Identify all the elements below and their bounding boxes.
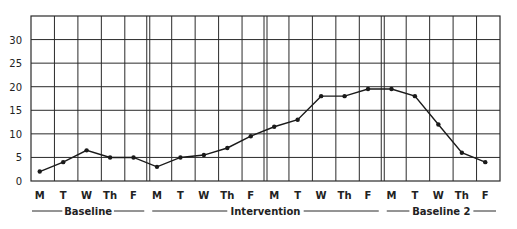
x-day-label: Th bbox=[338, 190, 352, 201]
data-point bbox=[272, 125, 276, 129]
x-day-label: W bbox=[433, 190, 444, 201]
data-point bbox=[202, 153, 206, 157]
x-day-label: F bbox=[247, 190, 254, 201]
x-day-label: T bbox=[177, 190, 184, 201]
x-day-label: W bbox=[81, 190, 92, 201]
y-tick-label: 10 bbox=[9, 129, 22, 140]
y-tick-label: 20 bbox=[9, 82, 22, 93]
data-point bbox=[249, 134, 253, 138]
data-point bbox=[413, 94, 417, 98]
x-day-label: M bbox=[35, 190, 45, 201]
y-tick-label: 15 bbox=[9, 105, 22, 116]
data-point bbox=[436, 122, 440, 126]
line-chart: 051015202530 MTWThFMTWThFMTWThFMTWThF Ba… bbox=[0, 0, 517, 229]
x-day-label: T bbox=[60, 190, 67, 201]
data-point bbox=[295, 118, 299, 122]
data-series bbox=[38, 87, 488, 174]
x-day-label: Th bbox=[220, 190, 234, 201]
x-day-label: T bbox=[412, 190, 419, 201]
x-day-label: M bbox=[386, 190, 396, 201]
data-point bbox=[483, 160, 487, 164]
data-point bbox=[108, 155, 112, 159]
data-point bbox=[225, 146, 229, 150]
y-tick-label: 0 bbox=[16, 176, 22, 187]
y-axis-ticks: 051015202530 bbox=[9, 35, 22, 187]
x-day-label: F bbox=[482, 190, 489, 201]
x-axis-day-labels: MTWThFMTWThFMTWThFMTWThF bbox=[35, 190, 489, 201]
data-point bbox=[84, 148, 88, 152]
data-point bbox=[389, 87, 393, 91]
data-point bbox=[61, 160, 65, 164]
data-point bbox=[319, 94, 323, 98]
x-day-label: Th bbox=[455, 190, 469, 201]
chart-grid bbox=[31, 16, 500, 181]
x-day-label: F bbox=[130, 190, 137, 201]
data-point bbox=[38, 169, 42, 173]
series-line bbox=[40, 89, 486, 172]
data-point bbox=[460, 151, 464, 155]
x-day-label: T bbox=[294, 190, 301, 201]
y-tick-label: 5 bbox=[16, 152, 22, 163]
phase-label: Intervention bbox=[231, 206, 301, 217]
y-tick-label: 25 bbox=[9, 58, 22, 69]
phase-label: Baseline bbox=[64, 206, 112, 217]
phase-labels: BaselineInterventionBaseline 2 bbox=[32, 206, 496, 217]
x-day-label: M bbox=[269, 190, 279, 201]
data-point bbox=[342, 94, 346, 98]
x-day-label: W bbox=[316, 190, 327, 201]
y-tick-label: 30 bbox=[9, 35, 22, 46]
data-point bbox=[155, 165, 159, 169]
x-day-label: Th bbox=[103, 190, 117, 201]
x-day-label: F bbox=[365, 190, 372, 201]
x-day-label: W bbox=[198, 190, 209, 201]
data-point bbox=[131, 155, 135, 159]
x-day-label: M bbox=[152, 190, 162, 201]
phase-label: Baseline 2 bbox=[412, 206, 470, 217]
data-point bbox=[366, 87, 370, 91]
data-point bbox=[178, 155, 182, 159]
